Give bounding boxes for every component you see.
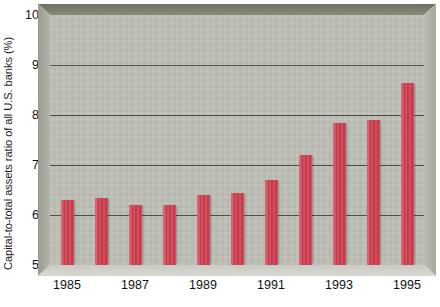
bar xyxy=(61,200,74,265)
y-tick-label: 10 xyxy=(25,9,39,22)
frame-top-bevel xyxy=(38,4,436,15)
x-tick-label: 1993 xyxy=(325,278,353,292)
bar xyxy=(265,180,278,265)
bar xyxy=(367,120,380,265)
x-axis-tick-labels: 198519871989199119931995 xyxy=(38,278,436,300)
frame-left-bevel xyxy=(38,4,50,276)
bar-chart: Capital-to-total assets ratio of all U.S… xyxy=(0,0,440,307)
bar xyxy=(231,193,244,266)
bar xyxy=(95,198,108,266)
plot-area xyxy=(50,15,424,265)
bars-group xyxy=(50,15,424,265)
chart-frame xyxy=(38,4,436,276)
y-axis-title: Capital-to-total assets ratio of all U.S… xyxy=(0,0,16,307)
bar xyxy=(401,83,414,266)
x-tick-label: 1985 xyxy=(53,278,81,292)
bar xyxy=(163,205,176,265)
x-tick-label: 1995 xyxy=(393,278,421,292)
bar xyxy=(333,123,346,266)
frame-right-bevel xyxy=(424,4,436,276)
bar xyxy=(197,195,210,265)
bar xyxy=(299,155,312,265)
x-tick-label: 1989 xyxy=(189,278,217,292)
frame-bottom-bevel xyxy=(38,265,436,276)
bar xyxy=(129,205,142,265)
x-tick-label: 1987 xyxy=(121,278,149,292)
x-tick-label: 1991 xyxy=(257,278,285,292)
